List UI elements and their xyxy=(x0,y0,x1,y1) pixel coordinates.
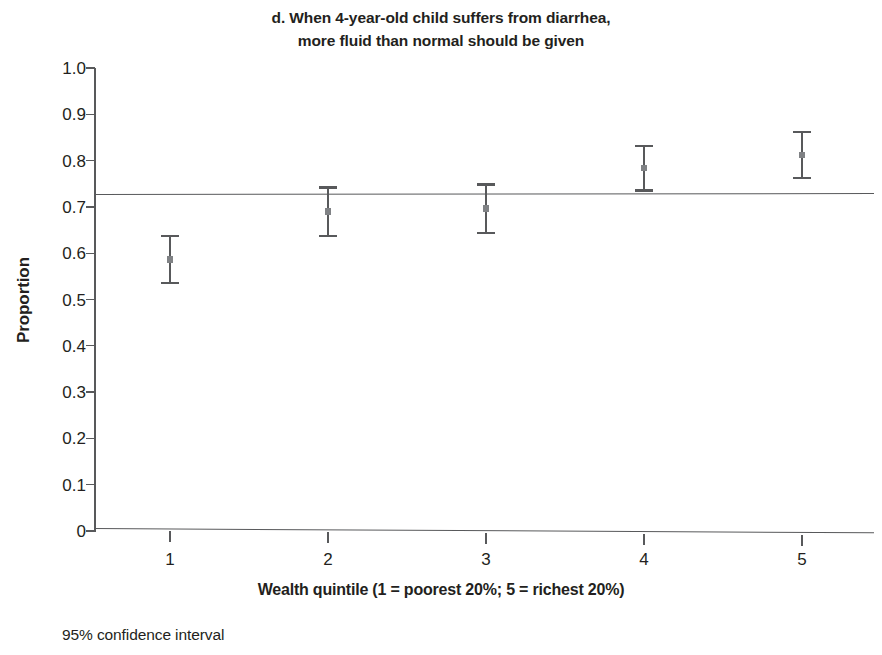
y-axis-tick xyxy=(86,67,95,68)
x-axis-tick xyxy=(643,534,644,545)
y-axis-tick xyxy=(86,299,95,300)
y-tick-label: 0.3 xyxy=(38,384,86,401)
error-bar-cap-lower xyxy=(161,282,179,284)
x-axis-tick xyxy=(169,531,170,542)
y-tick-label: 0.9 xyxy=(38,106,86,123)
figure-container: d. When 4-year-old child suffers from di… xyxy=(0,0,882,655)
x-axis-tick xyxy=(327,532,328,543)
y-tick-label: 0.7 xyxy=(38,199,86,216)
y-tick-label: 0 xyxy=(38,523,86,540)
y-axis-tick xyxy=(86,391,95,392)
x-tick-label: 5 xyxy=(772,551,832,568)
y-axis-tick xyxy=(86,253,95,254)
y-axis-tick xyxy=(86,484,95,485)
x-tick-label: 4 xyxy=(614,551,674,568)
y-axis-tick xyxy=(86,206,95,207)
x-tick-label: 1 xyxy=(140,551,200,568)
error-bar-cap-lower xyxy=(793,177,811,179)
data-point-marker xyxy=(325,208,332,215)
y-tick-label: 0.5 xyxy=(38,292,86,309)
error-bar-cap-upper xyxy=(319,186,337,188)
y-tick-label: 0.4 xyxy=(38,338,86,355)
y-axis-tick xyxy=(86,345,95,346)
y-tick-label: 0.1 xyxy=(38,477,86,494)
error-bar-cap-upper xyxy=(477,183,495,185)
x-axis-title: Wealth quintile (1 = poorest 20%; 5 = ri… xyxy=(0,581,882,599)
x-tick-label: 3 xyxy=(456,551,516,568)
data-point-marker xyxy=(799,152,806,159)
y-axis-tick xyxy=(86,114,95,115)
plot-area: Proportion Wealth quintile (1 = poorest … xyxy=(0,0,882,655)
x-tick-label: 2 xyxy=(298,551,358,568)
y-axis-title: Proportion xyxy=(14,220,34,380)
y-axis-tick xyxy=(86,438,95,439)
x-axis-tick xyxy=(801,535,802,546)
error-bar-cap-lower xyxy=(635,189,653,191)
x-axis-tick xyxy=(485,533,486,544)
error-bar-cap-upper xyxy=(161,235,179,237)
error-bar-cap-lower xyxy=(319,235,337,237)
y-tick-label: 0.2 xyxy=(38,430,86,447)
x-axis-line xyxy=(94,528,874,534)
footnote: 95% confidence interval xyxy=(62,626,224,644)
data-point-marker xyxy=(641,165,648,172)
data-point-marker xyxy=(167,256,174,263)
y-tick-label: 1.0 xyxy=(38,60,86,77)
error-bar-cap-upper xyxy=(793,131,811,133)
y-axis-tick xyxy=(86,530,95,531)
data-point-marker xyxy=(483,205,490,212)
y-axis-tick xyxy=(86,160,95,161)
y-tick-label: 0.8 xyxy=(38,153,86,170)
error-bar-cap-lower xyxy=(477,232,495,234)
y-tick-label: 0.6 xyxy=(38,245,86,262)
reference-line xyxy=(94,193,874,195)
error-bar-cap-upper xyxy=(635,145,653,147)
